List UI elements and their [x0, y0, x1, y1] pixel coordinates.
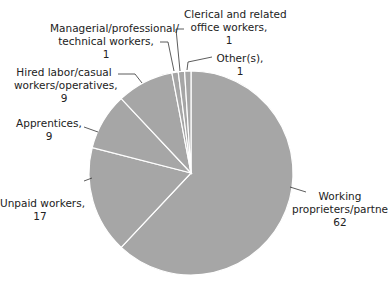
- label-text: Working: [292, 190, 388, 203]
- leader-line: [84, 127, 98, 132]
- label-apprentices: Apprentices, 9: [14, 117, 84, 143]
- label-value: 1: [50, 48, 162, 61]
- leader-line: [176, 29, 184, 71]
- label-working: Working proprieters/partners, 62: [292, 190, 388, 229]
- label-text: Unpaid workers,: [0, 197, 80, 210]
- label-text: Other(s),: [212, 52, 268, 65]
- label-value: 9: [14, 130, 84, 143]
- label-text: workers/operatives,: [14, 79, 114, 92]
- label-hired: Hired labor/casual workers/operatives, 9: [14, 66, 114, 105]
- label-text: Managerial/professional/: [50, 22, 162, 35]
- label-text: office workers,: [184, 21, 274, 34]
- label-value: 1: [212, 65, 268, 78]
- label-value: 9: [14, 92, 114, 105]
- leader-line: [118, 74, 142, 83]
- label-text: Hired labor/casual: [14, 66, 114, 79]
- label-value: 62: [292, 216, 388, 229]
- label-text: Apprentices,: [14, 117, 84, 130]
- leader-line: [160, 42, 174, 71]
- label-text: Clerical and related: [184, 8, 274, 21]
- label-text: proprieters/partners,: [292, 203, 388, 216]
- leader-line: [187, 57, 212, 70]
- label-value: 17: [0, 210, 80, 223]
- label-unpaid: Unpaid workers, 17: [0, 197, 80, 223]
- label-other: Other(s), 1: [212, 52, 268, 78]
- label-text: technical workers,: [50, 35, 162, 48]
- label-clerical: Clerical and related office workers, 1: [184, 8, 274, 47]
- label-managerial: Managerial/professional/ technical worke…: [50, 22, 162, 61]
- label-value: 1: [184, 34, 274, 47]
